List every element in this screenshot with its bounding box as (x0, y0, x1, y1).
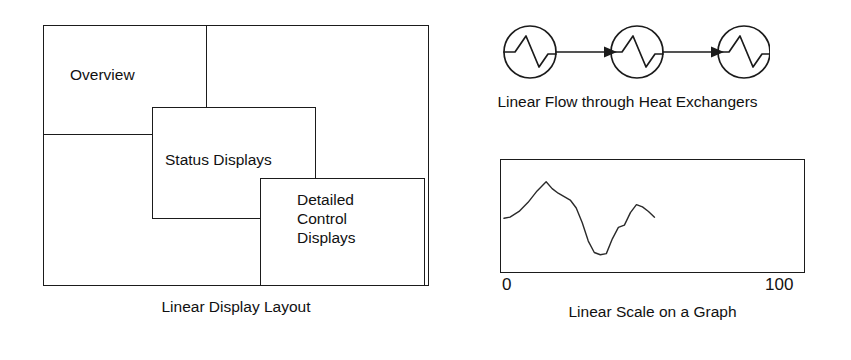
graph-trace (500, 159, 805, 273)
linear-scale-graph-caption: Linear Scale on a Graph (490, 302, 815, 321)
arrow-right-icon-1 (556, 47, 617, 58)
figure-root: Overview Status Displays Detailed Contro… (0, 0, 851, 360)
graph-axis-min-label: 0 (502, 275, 511, 295)
detailed-control-displays-label: Detailed Control Displays (297, 190, 356, 247)
heat-exchanger-icon-2 (611, 26, 663, 78)
heat-exchanger-icon-3 (718, 26, 770, 78)
heat-exchanger-flow-caption: Linear Flow through Heat Exchangers (485, 92, 770, 111)
graph-trace-line (504, 182, 655, 255)
right-panel: Linear Flow through Heat Exchangers 0 10… (440, 0, 851, 360)
status-displays-label: Status Displays (165, 150, 272, 169)
linear-scale-graph (500, 159, 805, 273)
overview-horizontal-divider (43, 134, 155, 135)
overview-vertical-divider (206, 25, 207, 110)
heat-exchanger-icon-1 (504, 26, 556, 78)
heat-exchanger-flow-diagram (485, 15, 770, 90)
graph-axis-max-label: 100 (765, 275, 793, 295)
linear-display-layout-caption: Linear Display Layout (43, 297, 429, 316)
arrow-right-icon-2 (663, 47, 724, 58)
overview-label: Overview (70, 65, 135, 84)
linear-display-layout-panel: Overview Status Displays Detailed Contro… (0, 0, 440, 360)
